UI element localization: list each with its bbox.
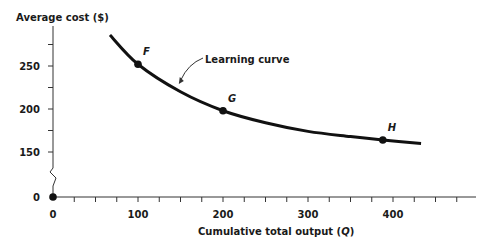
- point-g: [219, 107, 227, 115]
- point-label-g: G: [228, 93, 236, 104]
- x-tick-label: 400: [383, 209, 404, 220]
- y-tick-label: 250: [19, 61, 40, 72]
- point-label-f: F: [143, 46, 150, 57]
- y-axis-title: Average cost ($): [16, 12, 109, 23]
- axes: [50, 26, 476, 197]
- x-tick-label: 300: [298, 209, 319, 220]
- learning-curve-line: [110, 35, 421, 143]
- point-f: [134, 60, 142, 68]
- point-h: [379, 136, 387, 144]
- x-tick-label: 100: [128, 209, 149, 220]
- curve-points: FGH: [49, 46, 397, 201]
- origin-point: [49, 193, 57, 201]
- axis-break-icon: [50, 168, 56, 186]
- x-tick-label: 200: [213, 209, 234, 220]
- x-axis-title-text: Cumulative total output (: [198, 226, 341, 237]
- point-label-h: H: [388, 122, 397, 133]
- x-axis-title-paren: ): [350, 226, 355, 237]
- y-tick-label: 0: [33, 192, 40, 203]
- learning-curve-annotation: Learning curve: [179, 54, 290, 84]
- y-axis-ticks: 0150200250: [19, 45, 53, 204]
- y-tick-label: 200: [19, 104, 40, 115]
- x-axis-title: Cumulative total output (Q): [198, 226, 354, 237]
- x-tick-label: 0: [50, 209, 57, 220]
- y-tick-label: 150: [19, 147, 40, 158]
- annotation-label: Learning curve: [205, 54, 290, 65]
- x-axis-ticks: 0100200300400: [50, 197, 457, 220]
- annotation-arrow-icon: [181, 58, 203, 80]
- learning-curve-chart: Average cost ($) 0100200300400 015020025…: [0, 0, 491, 246]
